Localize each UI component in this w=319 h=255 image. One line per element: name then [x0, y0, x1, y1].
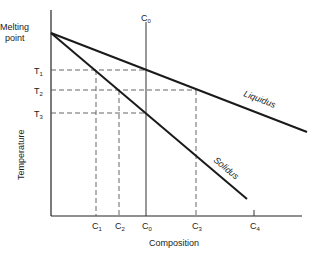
c2-label: C2: [115, 221, 126, 232]
solidus-line: [51, 33, 247, 199]
melting-label-line1: Melting: [0, 22, 29, 32]
dashed-guides: [51, 70, 196, 216]
liquidus-label: Liquidus: [242, 89, 277, 111]
c4-label: C4: [250, 221, 261, 232]
solidus-label: Solidus: [212, 155, 241, 182]
c1-label: C1: [92, 221, 103, 232]
c3-label: C3: [192, 221, 203, 232]
t1-label: T1: [34, 66, 44, 77]
melting-label-line2: point: [5, 33, 25, 43]
t3-label: T3: [34, 109, 44, 120]
t2-label: T2: [34, 86, 44, 97]
y-axis-label: Temperature: [16, 129, 26, 180]
phase-diagram: Melting point T1 T2 T3 Temperature C0 C1…: [0, 0, 319, 255]
liquidus-line: [51, 33, 307, 132]
c0-label: C0: [142, 221, 153, 232]
x-axis-label: Composition: [149, 238, 199, 248]
c0-top-label: C0: [141, 13, 152, 24]
